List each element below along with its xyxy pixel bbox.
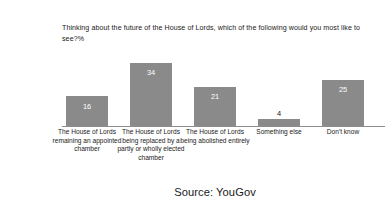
source-caption: Source: YouGov [40,186,389,198]
bar-value-label: 4 [258,109,300,118]
bar-slot: 4 [258,52,300,126]
bar-value-label: 16 [66,102,108,111]
x-axis-category-labels: The House of Lords remaining an appointe… [62,128,384,178]
chart-title: Thinking about the future of the House o… [62,23,374,44]
bar-rect[interactable]: 16 [66,96,108,126]
x-axis-line [62,126,385,127]
category-label: Don't know [307,128,379,137]
bar-chart-figure: Thinking about the future of the House o… [40,16,389,209]
category-label: The House of Lords being abolished entir… [179,128,251,145]
bar-rect[interactable]: 34 [130,63,172,126]
bar-slot: 21 [194,52,236,126]
bar-rect[interactable]: 21 [194,87,236,126]
category-label: The House of Lords being replaced by a p… [115,128,187,162]
bar-value-label: 25 [322,85,364,94]
category-label: The House of Lords remaining an appointe… [51,128,123,154]
bar-value-label: 34 [130,68,172,77]
bar-rect[interactable]: 4 [258,119,300,126]
bar-rect[interactable]: 25 [322,80,364,126]
bar-slot: 16 [66,52,108,126]
plot-area: 16 34 21 4 25 [62,52,384,126]
bar-slot: 34 [130,52,172,126]
bar-slot: 25 [322,52,364,126]
category-label: Something else [243,128,315,137]
bar-value-label: 21 [194,92,236,101]
